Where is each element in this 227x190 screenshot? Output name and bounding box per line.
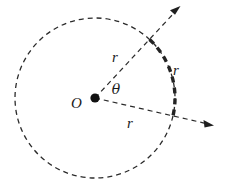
radius-lower-label: r: [127, 115, 133, 131]
center-point-dot: [90, 93, 99, 102]
lower-ray-arrowhead: [204, 120, 215, 127]
angle-theta-label: θ: [112, 81, 121, 97]
upper-ray-arrowhead: [170, 6, 181, 15]
upper-radius-ray: [95, 13, 174, 98]
radius-upper-label: r: [112, 49, 118, 65]
circle-radian-diagram: O θ r r r: [0, 0, 227, 190]
lower-radius-ray: [95, 98, 206, 124]
highlighted-arc: [150, 39, 175, 116]
figure-canvas: O θ r r r: [0, 0, 227, 190]
arc-length-label: r: [173, 62, 179, 78]
center-point-label: O: [71, 95, 82, 111]
